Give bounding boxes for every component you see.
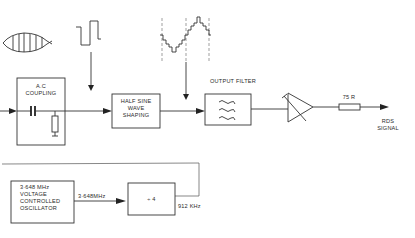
filter-icon [219,101,235,121]
resistor-label: 75 R [338,94,360,101]
output-filter-block [205,94,251,125]
square-wave-icon [76,21,101,45]
resistor-75r-icon [339,104,360,110]
half-sine-label: HALF SINE WAVE SHAPING [112,98,160,119]
divide-by-4-label: ÷ 4 [128,196,175,203]
rds-signal-label: RDS SIGNAL [368,118,408,132]
vco-output-frequency-label: 3·648MHz [78,193,105,200]
diagram-lines [0,0,415,238]
modulated-envelope-waveform-icon [3,33,52,52]
block-diagram: A.C COUPLING HALF SINE WAVE SHAPING OUTP… [0,0,415,238]
divider-output-frequency-label: 912 KHz [178,203,201,210]
vco-label: 3·648 MHz VOLTAGE CONTROLLED OSCILLATOR [20,184,60,212]
amplifier-icon [288,93,313,122]
stepped-sine-waveform-icon [160,17,211,63]
output-filter-label: OUTPUT FILTER [208,78,258,85]
ac-coupling-label: A.C COUPLING [17,83,65,97]
